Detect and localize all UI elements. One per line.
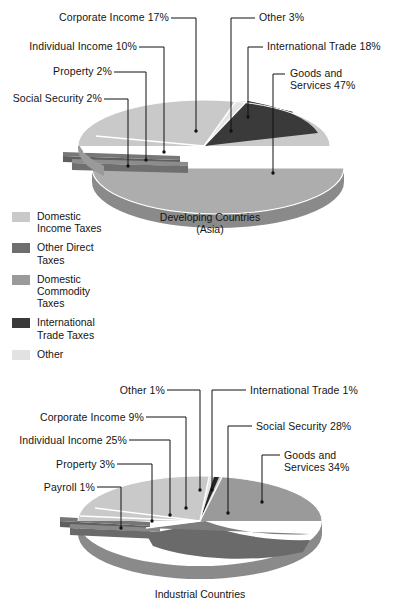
label-other-developing: Other 3%	[259, 11, 304, 23]
legend-item-other: Other	[12, 348, 127, 360]
legend-item-domestic-commodity-taxes: Domestic Commodity Taxes	[12, 273, 127, 310]
legend: Domestic Income Taxes Other Direct Taxes…	[12, 210, 127, 367]
legend-swatch-international-trade-taxes	[12, 318, 30, 328]
caption-industrial: Industrial Countries	[140, 588, 260, 600]
label-individual-income-developing: Individual Income 10%	[10, 40, 137, 52]
legend-item-domestic-income-taxes: Domestic Income Taxes	[12, 210, 127, 235]
legend-swatch-other-direct-taxes	[12, 243, 30, 253]
legend-label-international-trade-taxes: International Trade Taxes	[37, 316, 95, 341]
legend-label-domestic-commodity-taxes: Domestic Commodity Taxes	[37, 273, 90, 310]
label-other-industrial: Other 1%	[60, 384, 165, 396]
legend-swatch-other	[12, 350, 30, 360]
legend-swatch-domestic-income-taxes	[12, 212, 30, 222]
label-goods-services-industrial: Goods and Services 34%	[284, 449, 349, 474]
caption-developing: Developing Countries (Asia)	[150, 211, 270, 236]
label-property-industrial: Property 3%	[20, 458, 115, 470]
legend-item-other-direct-taxes: Other Direct Taxes	[12, 241, 127, 266]
legend-label-domestic-income-taxes: Domestic Income Taxes	[37, 210, 102, 235]
legend-label-other: Other	[37, 348, 63, 360]
label-corporate-income-developing: Corporate Income 17%	[10, 11, 169, 23]
label-corporate-income-industrial: Corporate Income 9%	[20, 411, 144, 423]
legend-swatch-domestic-commodity-taxes	[12, 275, 30, 285]
legend-item-international-trade-taxes: International Trade Taxes	[12, 316, 127, 341]
label-international-trade-industrial: International Trade 1%	[250, 384, 358, 396]
label-international-trade-developing: International Trade 18%	[267, 40, 381, 52]
legend-label-other-direct-taxes: Other Direct Taxes	[37, 241, 94, 266]
pie-chart-developing	[0, 0, 400, 230]
label-individual-income-industrial: Individual Income 25%	[10, 434, 127, 446]
slice-goods-services-industrial	[146, 521, 310, 559]
label-goods-services-developing: Goods and Services 47%	[290, 67, 355, 92]
label-social-security-industrial: Social Security 28%	[256, 420, 351, 432]
figure-canvas: Corporate Income 17% Individual Income 1…	[0, 0, 400, 615]
label-social-security-developing: Social Security 2%	[4, 92, 102, 104]
label-payroll-industrial: Payroll 1%	[20, 481, 95, 493]
label-property-developing: Property 2%	[10, 65, 112, 77]
